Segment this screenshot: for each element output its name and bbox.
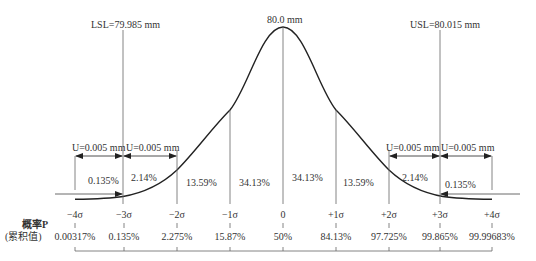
region-label: 0.135% xyxy=(445,179,476,190)
region-label: 0.135% xyxy=(88,175,119,186)
region-label: 2.14% xyxy=(131,172,157,183)
cumulative-value: 99.865% xyxy=(422,231,458,242)
lsl-label: LSL=79.985 mm xyxy=(91,19,160,30)
cumulative-value: 99.99683% xyxy=(469,231,515,242)
region-label: 13.59% xyxy=(343,177,374,188)
sigma-tick: +2σ xyxy=(381,209,398,220)
cumulative-label: (累积值) xyxy=(5,230,42,243)
cumulative-value: 50% xyxy=(274,231,292,242)
u-label-right-outer: U=0.005 mm xyxy=(441,142,495,153)
cumulative-value: 0.135% xyxy=(109,231,140,242)
sigma-tick: −1σ xyxy=(222,209,239,220)
region-label: 34.13% xyxy=(292,172,323,183)
cumulative-value: 97.725% xyxy=(371,231,407,242)
u-label-left-outer: U=0.005 mm xyxy=(72,142,126,153)
sigma-tick: +1σ xyxy=(328,209,345,220)
sigma-tick: −2σ xyxy=(169,209,186,220)
cumulative-value: 84.13% xyxy=(321,231,352,242)
u-label-right-inner: U=0.005 mm xyxy=(386,142,440,153)
u-label-left-inner: U=0.005 mm xyxy=(126,142,180,153)
region-label: 2.14% xyxy=(402,172,428,183)
cumulative-value: 2.275% xyxy=(162,231,193,242)
cumulative-value: 15.87% xyxy=(215,231,246,242)
mean-label: 80.0 mm xyxy=(267,14,303,25)
sigma-tick: 0 xyxy=(281,209,286,220)
probability-label: 概率P xyxy=(22,218,48,230)
tick-marks xyxy=(75,223,492,228)
sigma-tick: +4σ xyxy=(484,209,501,220)
usl-label: USL=80.015 mm xyxy=(410,19,480,30)
normal-distribution-diagram: LSL=79.985 mm USL=80.015 mm 80.0 mm U=0.… xyxy=(0,0,536,261)
cumulative-values: 0.00317% 0.135% 2.275% 15.87% 50% 84.13%… xyxy=(55,231,515,242)
sigma-axis: −4σ −3σ −2σ −1σ 0 +1σ +2σ +3σ +4σ xyxy=(67,209,501,220)
sigma-tick: −3σ xyxy=(116,209,133,220)
bottom-bracket xyxy=(75,247,492,251)
region-label: 13.59% xyxy=(186,177,217,188)
sigma-tick: +3σ xyxy=(432,209,449,220)
sigma-tick: −4σ xyxy=(67,209,84,220)
region-label: 34.13% xyxy=(239,177,270,188)
cumulative-value: 0.00317% xyxy=(55,231,96,242)
